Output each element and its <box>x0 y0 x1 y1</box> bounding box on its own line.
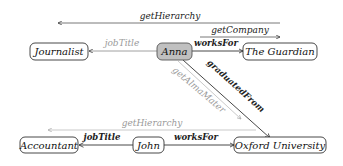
edge-john-works-for: worksFor <box>164 132 234 145</box>
edge-label-get-hierarchy-top: getHierarchy <box>140 11 202 21</box>
edge-get-company: getCompany <box>200 25 280 37</box>
edge-anna-job-title: jobTitle <box>89 38 157 51</box>
edge-anna-works-for: worksFor <box>192 38 243 51</box>
node-oxford-university: Oxford University <box>234 137 326 153</box>
edge-label-john-job-title: jobTitle <box>82 132 121 142</box>
node-label-the-guardian: The Guardian <box>245 46 314 57</box>
node-label-john: John <box>135 140 160 151</box>
node-the-guardian: The Guardian <box>243 43 317 60</box>
knowledge-graph-diagram: getHierarchy getCompany jobTitle worksFo… <box>0 0 343 166</box>
node-john: John <box>133 137 164 153</box>
node-label-accountant: Accountant <box>19 140 79 151</box>
edge-get-alma-mater: getAlmaMater <box>171 61 241 119</box>
edge-get-hierarchy-top: getHierarchy <box>58 11 280 23</box>
edge-get-hierarchy-bottom: getHierarchy <box>48 118 256 130</box>
node-label-anna: Anna <box>160 46 187 57</box>
edge-label-get-hierarchy-bottom: getHierarchy <box>122 118 184 128</box>
node-anna: Anna <box>157 43 192 60</box>
node-journalist: Journalist <box>30 43 88 60</box>
edge-label-john-works-for: worksFor <box>174 132 218 142</box>
edge-john-job-title: jobTitle <box>79 132 133 145</box>
node-label-journalist: Journalist <box>32 46 84 57</box>
edge-graduated-from: graduatedFrom <box>183 57 270 138</box>
edge-label-anna-works-for: worksFor <box>194 38 238 48</box>
edge-label-anna-job-title: jobTitle <box>103 38 140 48</box>
edge-label-get-company: getCompany <box>211 25 269 35</box>
node-label-oxford-university: Oxford University <box>235 140 326 151</box>
node-accountant: Accountant <box>19 137 79 153</box>
